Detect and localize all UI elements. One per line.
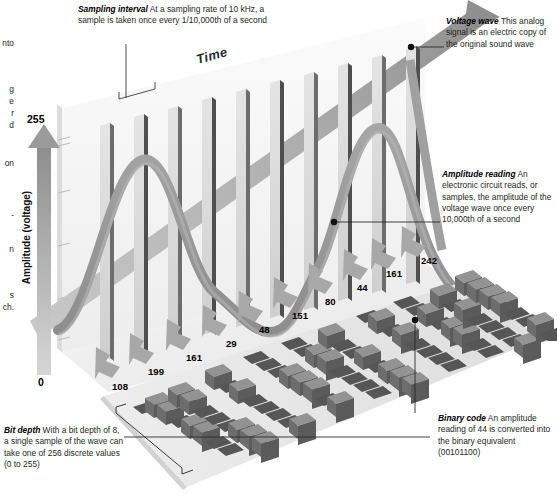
sample-value-label: 161 — [186, 352, 202, 363]
sample-value-label: 108 — [112, 381, 128, 392]
gutter-fragment: r — [0, 108, 14, 119]
axis-min-label: 0 — [38, 376, 44, 388]
sample-value-label: 48 — [259, 324, 270, 335]
annotation-term: Binary code — [438, 413, 486, 423]
annotation-term: Voltage wave — [446, 16, 499, 26]
annotation-term: Bit depth — [4, 425, 40, 435]
annotation-amplitude-reading: Amplitude reading An electronic circuit … — [442, 169, 554, 225]
gutter-fragment: d — [0, 120, 14, 131]
dot-amplitude-reading — [331, 219, 337, 225]
gutter-fragment: ch. — [0, 302, 14, 313]
gutter-fragment: g — [0, 84, 14, 95]
sample-value-label: 151 — [292, 310, 308, 321]
sample-value-label: 44 — [357, 282, 368, 293]
gutter-fragment: - — [0, 210, 14, 221]
annotation-term: Sampling interval — [78, 4, 148, 14]
annotation-binary-code: Binary code An amplitude reading of 44 i… — [438, 413, 554, 458]
sample-value-label: 242 — [421, 255, 437, 266]
sample-value-label: 161 — [386, 268, 402, 279]
annotation-term: Amplitude reading — [442, 169, 516, 179]
sample-value-label: 80 — [325, 296, 336, 307]
infographic-canvas: 255 0 Amplitude (voltage) Time Sampling … — [0, 0, 557, 494]
amplitude-axis-arrow — [28, 124, 60, 375]
annotation-sampling-interval: Sampling interval At a sampling rate of … — [78, 4, 274, 27]
sample-value-label: 29 — [226, 338, 237, 349]
gutter-fragment: on — [0, 158, 14, 169]
sample-value-label: 199 — [148, 366, 164, 377]
amplitude-axis-title: Amplitude (voltage) — [21, 183, 32, 293]
gutter-fragment: nto — [0, 38, 14, 49]
dot-voltage-wave — [408, 44, 414, 50]
axis-max-label: 255 — [27, 113, 45, 125]
gutter-fragment: s — [0, 290, 14, 301]
annotation-voltage-wave: Voltage wave This analog signal is an el… — [446, 16, 554, 50]
dot-binary-code — [412, 317, 418, 323]
gutter-fragment: n — [0, 244, 14, 255]
annotation-bit-depth: Bit depth With a bit depth of 8, a singl… — [4, 425, 126, 470]
gutter-fragment: e — [0, 96, 14, 107]
